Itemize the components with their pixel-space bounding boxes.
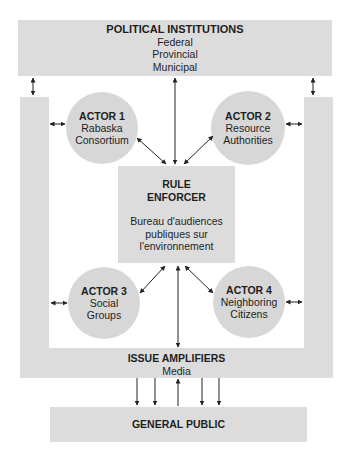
political-institutions-label: POLITICAL INSTITUTIONS Federal Provincia… xyxy=(18,23,332,73)
issue-amplifiers-label: ISSUE AMPLIFIERS Media xyxy=(20,352,333,377)
issue-amplifiers-title: ISSUE AMPLIFIERS xyxy=(20,352,333,365)
actor-3-label: ACTOR 3 xyxy=(81,285,127,297)
rule-enforcer-spacer xyxy=(118,203,235,215)
rule-enforcer-body-2: publiques sur xyxy=(118,228,235,241)
actor-1-label: ACTOR 1 xyxy=(79,110,125,122)
actor-1-circle: ACTOR 1 Rabaska Consortium xyxy=(66,92,138,164)
actor-4-name-line-2: Citizens xyxy=(230,308,267,320)
rule-enforcer-title-1: RULE xyxy=(118,178,235,191)
actor-3-name-line-2: Groups xyxy=(87,309,121,321)
frame-left-column xyxy=(20,97,49,378)
actor-2-name-line-1: Resource xyxy=(226,122,271,134)
arrow-actor2-enforcer xyxy=(184,136,213,164)
rule-enforcer-label: RULE ENFORCER Bureau d'audiences publiqu… xyxy=(118,178,235,253)
actor-3-circle: ACTOR 3 Social Groups xyxy=(68,267,140,339)
rule-enforcer-body-1: Bureau d'audiences xyxy=(118,215,235,228)
arrow-actor1-enforcer xyxy=(137,138,166,164)
actor-2-name-line-2: Authorities xyxy=(223,134,273,146)
actor-2-label: ACTOR 2 xyxy=(225,110,271,122)
general-public-title: GENERAL PUBLIC xyxy=(50,418,307,431)
actor-4-name-line-1: Neighboring xyxy=(221,296,278,308)
political-institutions-title: POLITICAL INSTITUTIONS xyxy=(18,23,332,36)
rule-enforcer-title-2: ENFORCER xyxy=(118,191,235,204)
general-public-label: GENERAL PUBLIC xyxy=(50,418,307,431)
level-municipal: Municipal xyxy=(18,61,332,74)
level-provincial: Provincial xyxy=(18,48,332,61)
level-federal: Federal xyxy=(18,36,332,49)
actor-3-name-line-1: Social xyxy=(90,297,119,309)
actor-1-name-line-2: Consortium xyxy=(75,134,129,146)
actor-1-name-line-1: Rabaska xyxy=(81,122,122,134)
actor-2-circle: ACTOR 2 Resource Authorities xyxy=(211,91,285,165)
rule-enforcer-body-3: l'environnement xyxy=(118,240,235,253)
issue-amplifiers-subtitle: Media xyxy=(20,365,333,378)
arrow-actor4-enforcer xyxy=(185,266,213,293)
frame-right-column xyxy=(304,97,333,378)
arrow-actor3-enforcer xyxy=(140,266,165,293)
actor-4-circle: ACTOR 4 Neighboring Citizens xyxy=(213,266,285,338)
actor-4-label: ACTOR 4 xyxy=(226,284,272,296)
